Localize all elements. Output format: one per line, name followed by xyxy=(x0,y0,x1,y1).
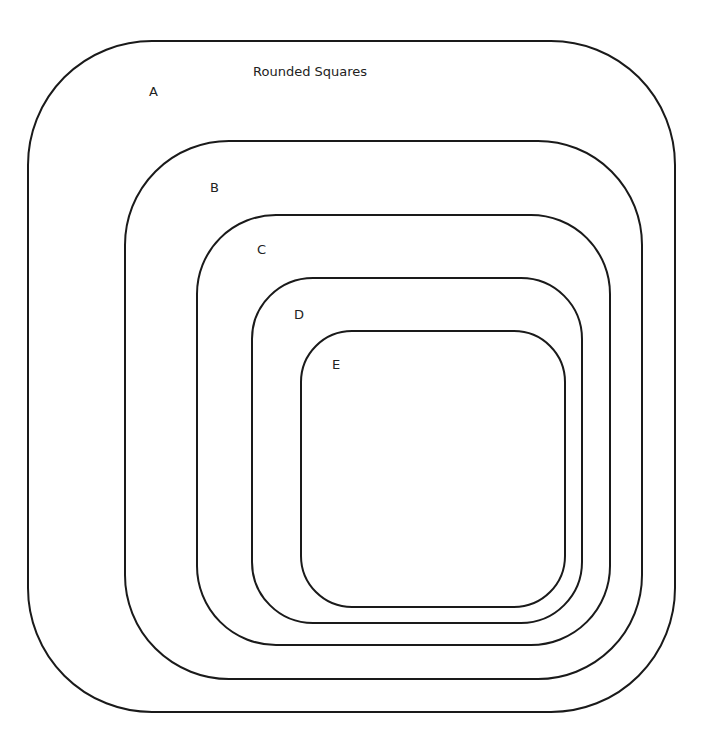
label-c: C xyxy=(257,242,266,257)
label-a: A xyxy=(149,84,158,99)
label-b: B xyxy=(210,180,219,195)
label-e: E xyxy=(332,357,340,372)
label-d: D xyxy=(294,307,304,322)
